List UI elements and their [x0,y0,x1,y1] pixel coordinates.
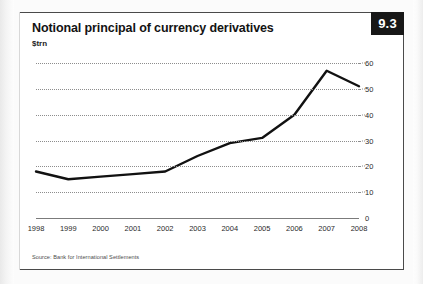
x-axis-tick-label: 2008 [351,224,368,233]
plot-area: 0102030405060 [36,63,359,218]
x-axis-tick-label: 2003 [189,224,206,233]
y-axis-tick-label: 50 [365,84,373,93]
x-axis-tick-label: 2007 [318,224,335,233]
x-axis-tick-label: 2004 [221,224,238,233]
x-axis-tick-label: 1999 [60,224,77,233]
chapter-badge: 9.3 [371,12,404,35]
chart-screenshot: 9.3 Notional principal of currency deriv… [0,0,423,284]
page-edge-shadow-right [413,0,423,284]
x-axis-tick-label: 2002 [157,224,174,233]
grid-line [36,63,359,64]
grid-line [36,192,359,193]
y-axis-tick-label: 0 [365,214,369,223]
grid-line [36,166,359,167]
x-axis-labels: 1998199920002001200220032004200520062007… [36,224,359,236]
x-axis-tick-label: 1998 [28,224,45,233]
chart-card: 9.3 Notional principal of currency deriv… [19,12,404,270]
source-note: Source: Bank for International Settlemen… [32,254,139,260]
y-axis-tick-label: 60 [365,59,373,68]
grid-line [36,89,359,90]
axis-baseline [36,218,359,219]
y-axis-tick-label: 20 [365,162,373,171]
chapter-badge-number: 9.3 [378,16,397,31]
x-axis-tick-label: 2006 [286,224,303,233]
y-axis-tick-label: 10 [365,188,373,197]
page-edge-shadow-left [0,0,14,284]
y-axis-tick-label: 40 [365,110,373,119]
x-axis-tick-label: 2005 [254,224,271,233]
grid-line [36,141,359,142]
chart-units-label: $trn [32,39,47,48]
x-axis-tick-label: 2001 [125,224,142,233]
page-title: Notional principal of currency derivativ… [32,21,274,35]
x-axis-tick-label: 2000 [92,224,109,233]
y-axis-tick-label: 30 [365,136,373,145]
grid-line [36,115,359,116]
